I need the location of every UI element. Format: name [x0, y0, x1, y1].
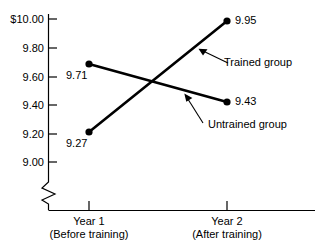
series-label-trained: Trained group: [224, 57, 292, 68]
x-category-year-1-sub: (Before training): [24, 228, 154, 241]
value-label-trained-year1: 9.27: [66, 138, 87, 149]
data-point-trained-year2: [223, 17, 230, 24]
value-label-trained-year2: 9.95: [235, 15, 256, 26]
y-tick-label-5: 9.00: [0, 157, 44, 168]
series-label-untrained: Untrained group: [208, 119, 287, 130]
y-tick-label-0: $10.00: [0, 14, 44, 25]
data-point-trained-year1: [85, 128, 92, 135]
x-category-year-1-main: Year 1: [24, 215, 154, 228]
data-point-untrained-year2: [223, 98, 230, 105]
data-point-untrained-year1: [85, 60, 92, 67]
line-chart: $10.00 9.80 9.60 9.40 9.20 9.00 9.71 9.2…: [0, 0, 322, 246]
y-tick-label-1: 9.80: [0, 43, 44, 54]
x-category-year-2-sub: (After training): [162, 228, 292, 241]
y-tick-label-2: 9.60: [0, 72, 44, 83]
x-category-year-2: Year 2 (After training): [162, 215, 292, 241]
x-category-year-1: Year 1 (Before training): [24, 215, 154, 241]
y-tick-label-3: 9.40: [0, 100, 44, 111]
y-axis-break-icon: [42, 180, 55, 210]
series-line-untrained: [89, 64, 227, 102]
value-label-untrained-year1: 9.71: [66, 70, 87, 81]
y-tick-label-4: 9.20: [0, 129, 44, 140]
value-label-untrained-year2: 9.43: [235, 96, 256, 107]
x-category-year-2-main: Year 2: [162, 215, 292, 228]
series-line-trained: [89, 21, 227, 132]
